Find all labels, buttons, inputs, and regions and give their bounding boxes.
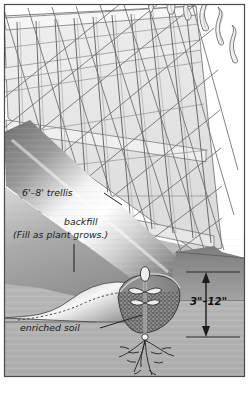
backfill-note: (Fill as plant grows.)	[13, 229, 108, 240]
seedling-crown	[142, 334, 148, 340]
diagram-figure: 6'–8' trellis backfill (Fill as plant gr…	[0, 0, 249, 401]
seedling-bud	[140, 267, 149, 282]
scene: 6'–8' trellis backfill (Fill as plant gr…	[4, 0, 245, 377]
depth-dimension-label: 3"–12"	[190, 296, 227, 307]
diagram-canvas: 6'–8' trellis backfill (Fill as plant gr…	[0, 0, 249, 401]
trellis-label: 6'–8' trellis	[22, 187, 73, 198]
enriched-soil-label: enriched soil	[20, 322, 80, 333]
backfill-label: backfill	[64, 216, 98, 227]
